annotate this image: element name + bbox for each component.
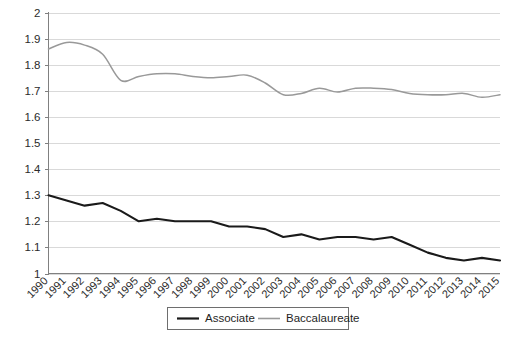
chart-legend: Associate Baccalaureate [168,308,360,330]
legend-label-associate: Associate [205,312,255,324]
y-axis-tick-label: 1.7 [25,85,41,97]
y-axis-tick-label: 1.9 [25,33,41,45]
y-axis-tick-label: 1.4 [25,163,42,175]
y-axis-tick-label: 1.6 [25,111,41,123]
legend-label-baccalaureate: Baccalaureate [286,312,360,324]
chart-canvas: 11.11.21.31.41.51.61.71.81.92 1990199119… [0,0,514,341]
y-axis-tick-label: 1.8 [25,59,41,71]
y-axis-tick-label: 2 [34,7,40,19]
y-axis-tick-label: 1.3 [25,189,41,201]
y-axis-tick-label: 1.2 [25,215,41,227]
y-axis-tick-label: 1.1 [25,241,41,253]
line-chart: 11.11.21.31.41.51.61.71.81.92 1990199119… [0,0,514,341]
y-axis-tick-label: 1.5 [25,137,41,149]
